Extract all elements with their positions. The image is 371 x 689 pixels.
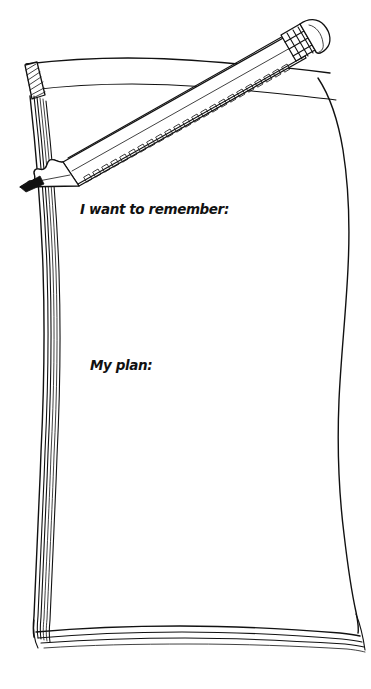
notepad-illustration: I want to remember: My plan: — [0, 0, 371, 689]
answer-area-plan[interactable] — [80, 376, 330, 616]
answer-area-remember[interactable] — [80, 220, 320, 350]
prompt-label-remember: I want to remember: — [80, 201, 229, 217]
bottom-line-4 — [44, 644, 365, 652]
prompt-label-plan: My plan: — [90, 357, 152, 373]
worksheet-canvas: I want to remember: My plan: — [0, 0, 371, 689]
writing-areas — [80, 220, 330, 616]
